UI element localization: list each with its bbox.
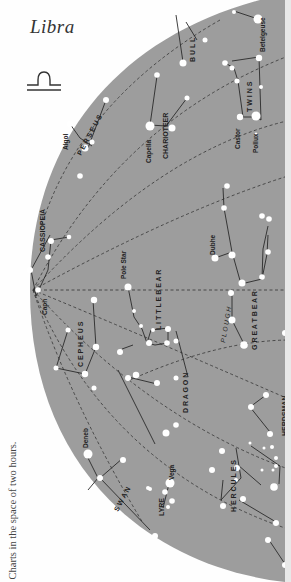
- sign-title: Libra: [30, 16, 75, 38]
- label-caph: Caph: [41, 299, 49, 315]
- label-algol: Algol: [62, 134, 70, 150]
- label-pollux: Pollux: [252, 133, 259, 153]
- label-betelgeuse: Betelgeuse: [259, 17, 267, 52]
- label-cassiopeia: CASSIOPEIA: [39, 209, 46, 252]
- label-pole-star: Pole Star: [120, 250, 127, 279]
- book-page: P E R S E U S CHARIOTEER B U L L T W I N…: [0, 0, 291, 582]
- label-dubhe: Dubhe: [209, 234, 216, 255]
- libra-symbol-icon: [26, 70, 62, 94]
- label-cepheus: C E P H E U S: [77, 321, 84, 367]
- label-lyre: LYRE: [158, 498, 165, 516]
- label-castor: Castor: [234, 128, 241, 149]
- label-vega: Vega: [168, 464, 176, 480]
- label-bull: B U L L: [189, 37, 196, 62]
- label-little-bear: L I T T L E B E A R: [155, 270, 162, 330]
- label-hercules: H E R C U L E S: [230, 460, 237, 512]
- page-edge: [285, 0, 291, 582]
- label-dragon: D R A G O N: [182, 373, 189, 413]
- label-capella: Capella: [145, 139, 153, 163]
- label-great-bear: G R E A T B E A R: [251, 291, 258, 350]
- label-charioteer: CHARIOTEER: [162, 113, 169, 159]
- label-deneb: Deneb: [82, 428, 89, 448]
- label-twins: T W I N S: [246, 81, 253, 112]
- page-caption: Charts in the space of two hours.: [7, 420, 18, 580]
